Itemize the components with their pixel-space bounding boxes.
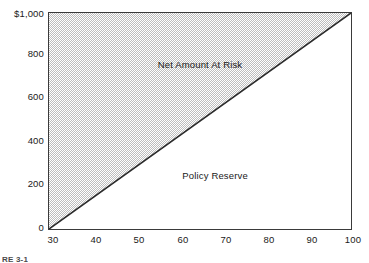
y-axis-tick-label-800: 800 [0,48,44,59]
y-axis-tick-label-1000: $1,000 [0,8,44,19]
net-amount-at-risk-label: Net Amount At Risk [158,59,243,70]
figure-caption-fragment: RE 3-1 [2,255,28,263]
x-axis-tick-label-50: 50 [134,234,145,245]
x-axis-tick-label-30: 30 [48,234,59,245]
policy-reserve-label: Policy Reserve [182,170,247,181]
y-axis-tick-label-200: 200 [0,178,44,189]
plot-area: Net Amount At Risk Policy Reserve [48,12,352,230]
policy-reserve-boundary-line [49,13,351,229]
x-axis-tick-label-70: 70 [221,234,232,245]
x-axis-tick-label-100: 100 [345,234,361,245]
y-axis-tick-label-600: 600 [0,91,44,102]
y-axis-tick-label-400: 400 [0,135,44,146]
x-axis-tick-label-40: 40 [91,234,102,245]
x-axis-tick-label-80: 80 [264,234,275,245]
y-axis-tick-label-0: 0 [0,222,44,233]
x-axis-tick-label-90: 90 [307,234,318,245]
x-axis-tick-label-60: 60 [178,234,189,245]
